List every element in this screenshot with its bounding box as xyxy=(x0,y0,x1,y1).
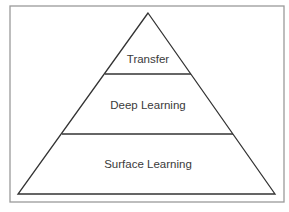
level-label-deep-learning: Deep Learning xyxy=(110,99,185,111)
learning-pyramid-diagram: Transfer Deep Learning Surface Learning xyxy=(0,0,289,212)
level-label-transfer: Transfer xyxy=(127,53,170,65)
level-label-surface-learning: Surface Learning xyxy=(104,158,192,170)
